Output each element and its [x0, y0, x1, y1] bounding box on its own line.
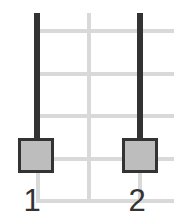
slider-label: 1 [17, 185, 47, 216]
grid-line-horizontal [38, 114, 174, 118]
slider-diagram: 1 2 [0, 0, 183, 222]
grid-line-horizontal [38, 72, 174, 76]
slider-label: 2 [122, 185, 152, 216]
slider-track[interactable] [34, 13, 40, 139]
slider-track[interactable] [137, 13, 143, 139]
slider-handle[interactable] [18, 138, 54, 173]
grid-line-horizontal [38, 199, 174, 203]
slider-handle[interactable] [122, 138, 158, 173]
grid-line-horizontal [38, 29, 174, 33]
grid-line-vertical [87, 13, 91, 203]
